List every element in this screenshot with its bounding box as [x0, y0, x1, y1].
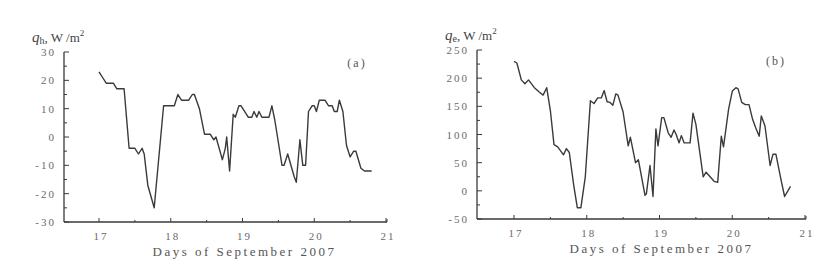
y-axis-title: qh, W /m2 [32, 28, 84, 46]
panel-label: (b) [766, 54, 786, 68]
y-tick-label: 0 [49, 131, 57, 143]
y-tick-label: 100 [447, 129, 470, 141]
y-tick-label: -20 [35, 188, 56, 200]
panel-label: (a) [347, 56, 366, 70]
y-tick-label: 10 [41, 103, 56, 115]
chart-panel-a: 3020100-10-20-301718192021Days of Septem… [0, 0, 415, 274]
chart-a-svg: 3020100-10-20-301718192021Days of Septem… [0, 0, 415, 274]
chart-b-svg: 250200150100500-501718192021Days of Sept… [415, 0, 830, 274]
x-tick-label: 19 [237, 230, 252, 242]
x-tick-label: 17 [94, 230, 109, 242]
y-tick-label: 200 [447, 72, 470, 84]
y-tick-label: 30 [41, 46, 56, 58]
y-tick-label: 250 [447, 44, 470, 56]
x-tick-label: 21 [381, 230, 396, 242]
x-axis-title: Days of September 2007 [153, 244, 337, 259]
y-tick-label: 0 [462, 185, 470, 197]
axes: 3020100-10-20-301718192021 [35, 46, 395, 242]
chart-panel-b: 250200150100500-501718192021Days of Sept… [415, 0, 830, 274]
x-tick-label: 20 [727, 227, 742, 239]
y-axis-title: qe, W /m2 [445, 26, 497, 44]
x-tick-label: 21 [800, 227, 815, 239]
x-axis-title: Days of September 2007 [570, 241, 754, 256]
data-line-q_h [99, 72, 372, 208]
y-tick-label: 50 [454, 157, 469, 169]
axes: 250200150100500-501718192021 [447, 44, 815, 239]
x-tick-label: 18 [165, 230, 180, 242]
y-tick-label: -50 [448, 213, 469, 225]
x-tick-label: 20 [309, 230, 324, 242]
x-tick-label: 18 [581, 227, 596, 239]
y-tick-label: -30 [35, 216, 56, 228]
y-tick-label: -10 [35, 159, 56, 171]
y-tick-label: 20 [41, 74, 56, 86]
x-tick-label: 19 [654, 227, 669, 239]
y-tick-label: 150 [447, 100, 470, 112]
x-tick-label: 17 [509, 227, 524, 239]
data-line-q_e [514, 61, 791, 207]
